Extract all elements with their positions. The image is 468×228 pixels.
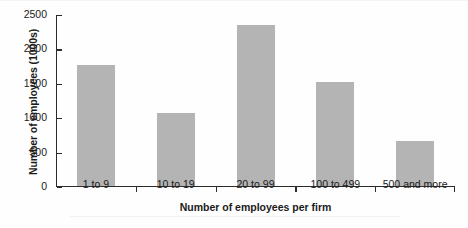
y-axis-tick [57,15,62,16]
scan-artifact-corner [0,0,468,1]
y-axis-tick-label: 1000 [24,111,47,123]
x-axis-tick-label: 20 to 99 [237,178,275,190]
bar [157,113,195,185]
x-axis-title: Number of employees per firm [56,201,455,213]
y-axis-title: Number of employees (1000s) [27,7,39,197]
y-axis-tick-label: 2000 [24,42,47,54]
x-axis-tick-label: 500 and more [383,178,448,190]
bar [237,25,275,185]
y-axis-tick-label: 0 [41,180,47,192]
scan-artifact-line [70,216,400,217]
x-axis-end-tick [454,187,455,192]
bar [77,65,115,185]
bar [316,82,354,186]
y-axis-tick-label: 1500 [24,77,47,89]
y-axis-tick [57,118,62,119]
x-axis-tick-label: 10 to 19 [157,178,195,190]
x-axis-tick [216,187,217,192]
y-axis-line [56,15,57,187]
y-axis-tick [57,153,62,154]
y-axis-tick [57,49,62,50]
plot-area: 05001000150020002500 [56,15,455,187]
x-axis-tick-label: 1 to 9 [83,178,109,190]
x-axis-tick [136,187,137,192]
x-axis-tick [375,187,376,192]
chart-screenshot: Number of employees (1000s) 050010001500… [0,0,468,228]
y-axis-tick [57,84,62,85]
x-axis-tick [295,187,296,192]
y-axis-tick [57,187,62,188]
x-axis-tick-label: 100 to 499 [310,178,360,190]
y-axis-tick-label: 500 [29,146,47,158]
y-axis-tick-label: 2500 [24,8,47,20]
